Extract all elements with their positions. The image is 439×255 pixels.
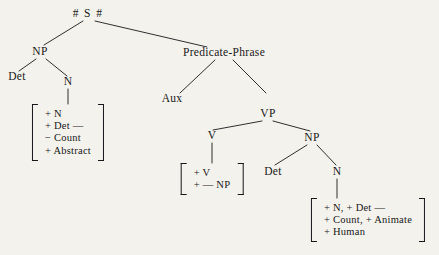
feature-matrix-object-noun: + N, + Det — + Count, + Animate + Human bbox=[311, 198, 425, 242]
edge-vp-to-v bbox=[213, 121, 262, 130]
feature-rows: + N + Det — − Count + Abstract bbox=[38, 104, 98, 161]
feature-row: + Det — bbox=[45, 120, 91, 132]
node-det-object: Det bbox=[264, 166, 282, 178]
feature-row: + Abstract bbox=[45, 145, 91, 157]
edge-np-right-to-det bbox=[275, 145, 307, 165]
edge-root-to-predicate-phrase bbox=[95, 21, 207, 47]
bracket-right bbox=[98, 104, 104, 161]
feature-rows: + N, + Det — + Count, + Animate + Human bbox=[317, 198, 419, 242]
feature-matrix-verb: + V + — NP bbox=[181, 163, 244, 195]
node-det-subject: Det bbox=[8, 71, 26, 83]
node-n-subject: N bbox=[64, 76, 73, 88]
phrase-structure-tree-diagram: # S # NP Det N Predicate-Phrase Aux VP V… bbox=[0, 0, 439, 255]
node-vp: VP bbox=[260, 108, 275, 120]
feature-row: + N bbox=[45, 108, 91, 120]
node-v: V bbox=[208, 130, 217, 142]
edge-np-right-to-n bbox=[317, 145, 336, 165]
bracket-right bbox=[237, 163, 243, 195]
bracket-right bbox=[419, 198, 425, 242]
edge-predicate-phrase-to-aux bbox=[180, 60, 215, 93]
feature-row: + Human bbox=[324, 226, 412, 238]
node-predicate-phrase: Predicate-Phrase bbox=[183, 47, 265, 59]
feature-row: + V bbox=[194, 167, 231, 179]
feature-row: + — NP bbox=[194, 179, 231, 191]
edge-root-to-np-left bbox=[44, 21, 83, 45]
feature-rows: + V + — NP bbox=[187, 163, 238, 195]
feature-matrix-subject-noun: + N + Det — − Count + Abstract bbox=[32, 104, 104, 161]
node-root-sentence: # S # bbox=[73, 8, 104, 20]
edge-np-left-to-n bbox=[46, 59, 67, 76]
feature-row: + Count, + Animate bbox=[324, 214, 412, 226]
node-aux: Aux bbox=[162, 93, 183, 105]
feature-row: + N, + Det — bbox=[324, 202, 412, 214]
node-np-object: NP bbox=[304, 132, 319, 144]
edge-np-left-to-det bbox=[19, 59, 36, 71]
edge-predicate-phrase-to-vp bbox=[233, 60, 266, 93]
edge-vp-to-np-right bbox=[273, 121, 310, 131]
feature-row: − Count bbox=[45, 132, 91, 144]
node-n-object: N bbox=[333, 166, 342, 178]
node-np-subject: NP bbox=[32, 46, 47, 58]
